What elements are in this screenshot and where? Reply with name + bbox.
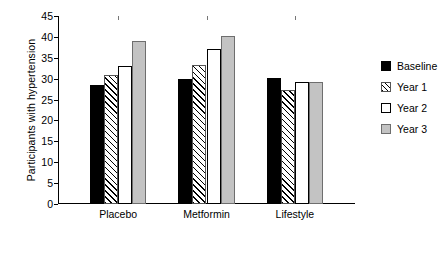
y-tick-label: 20 [41,114,53,126]
chart-legend: BaselineYear 1Year 2Year 3 [381,60,437,135]
y-axis-title: Participants with hypertension [25,15,37,205]
y-tick-label: 30 [41,73,53,85]
legend-swatch-icon [381,61,391,71]
legend-label: Year 1 [397,81,427,93]
legend-swatch-icon [381,103,391,113]
legend-label: Baseline [397,60,437,72]
bar-placebo-year-2 [118,66,132,204]
x-tick [295,16,296,20]
y-tick-label: 40 [41,31,53,43]
x-tick [118,16,119,20]
bar-chart: Participants with hypertension 051015202… [0,0,446,257]
y-tick [54,204,58,205]
y-tick-label: 45 [41,10,53,22]
legend-item-year-1: Year 1 [381,81,437,93]
plot-area: 051015202530354045 PlaceboMetforminLifes… [58,16,355,204]
legend-label: Year 2 [397,102,427,114]
legend-item-year-2: Year 2 [381,102,437,114]
legend-label: Year 3 [397,123,427,135]
y-tick-label: 35 [41,52,53,64]
x-axis-label-metformin: Metformin [183,208,230,220]
y-tick-label: 10 [41,156,53,168]
bar-placebo-year-3 [132,41,146,204]
x-axis-label-lifestyle: Lifestyle [276,208,315,220]
bar-lifestyle-year-1 [281,90,295,204]
legend-swatch-icon [381,124,391,134]
y-tick-label: 5 [47,177,53,189]
bar-lifestyle-year-2 [295,82,309,204]
bar-placebo-baseline [90,85,104,204]
bar-placebo-year-1 [104,75,118,204]
bar-lifestyle-baseline [267,78,281,204]
y-tick-label: 15 [41,135,53,147]
x-axis-label-placebo: Placebo [99,208,137,220]
x-tick [207,16,208,20]
bars-layer [58,16,355,204]
y-tick-label: 0 [47,198,53,210]
bar-metformin-baseline [178,79,192,204]
bar-metformin-year-1 [192,65,206,204]
bar-metformin-year-2 [207,49,221,204]
legend-swatch-icon [381,82,391,92]
legend-item-baseline: Baseline [381,60,437,72]
legend-item-year-3: Year 3 [381,123,437,135]
y-tick-label: 25 [41,94,53,106]
bar-lifestyle-year-3 [309,82,323,204]
bar-metformin-year-3 [221,36,235,204]
